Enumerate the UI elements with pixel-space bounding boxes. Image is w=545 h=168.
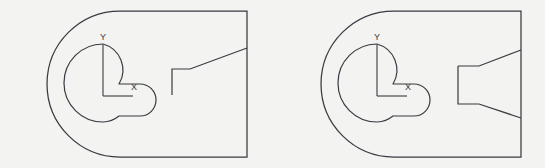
right-axis-label-y: Y [374, 32, 380, 42]
left-keyhole-cutout [64, 44, 156, 122]
left-axis-label-x: X [131, 82, 137, 92]
right-keyhole-cutout [338, 44, 430, 122]
drawing-canvas: Y X Y X [0, 0, 545, 168]
figure-left: Y X [47, 11, 247, 157]
left-plate-outline [47, 11, 247, 157]
figure-right: Y X [321, 11, 521, 157]
right-axis-label-x: X [405, 82, 411, 92]
technical-drawing-svg: Y X Y X [0, 0, 545, 168]
left-step-notch-diagonal [172, 48, 247, 95]
right-plate-outline [321, 11, 521, 157]
left-axis-label-y: Y [100, 32, 106, 42]
right-tapered-funnel [458, 50, 521, 118]
